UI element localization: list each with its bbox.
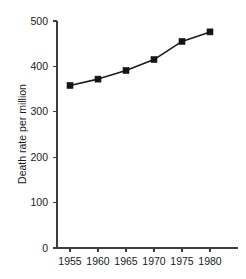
data-point-1960 [95, 76, 101, 82]
y-axis-title: Death rate per million [16, 59, 28, 209]
y-tick-label-400: 400 [8, 61, 48, 72]
data-point-1965 [123, 67, 129, 73]
y-tick-label-200: 200 [8, 152, 48, 163]
y-axis-ticks [53, 21, 57, 248]
data-point-1955 [67, 82, 73, 88]
x-tick-label-1980: 1980 [190, 256, 230, 267]
x-axis-ticks [70, 248, 210, 252]
y-tick-label-100: 100 [8, 197, 48, 208]
data-point-1970 [151, 57, 157, 63]
plot-area [0, 0, 246, 279]
y-tick-label-0: 0 [8, 243, 48, 254]
data-series [67, 29, 213, 89]
data-point-1980 [207, 29, 213, 35]
axes [53, 21, 238, 252]
series-line-death-rate [70, 32, 210, 86]
line-chart: 0100200300400500 19551960196519701975198… [0, 0, 246, 279]
y-tick-label-500: 500 [8, 16, 48, 27]
y-tick-label-300: 300 [8, 106, 48, 117]
data-point-1975 [179, 38, 185, 44]
